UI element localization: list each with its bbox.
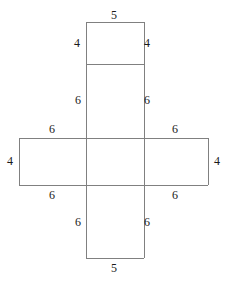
dimension-label-upper-middle-right-6: 6 bbox=[144, 94, 150, 106]
dimension-label-band-right-4: 4 bbox=[214, 155, 220, 167]
dimension-label-band-bottom-left-6: 6 bbox=[49, 189, 55, 201]
dimension-label-top-edge-5: 5 bbox=[111, 9, 117, 21]
dimension-label-top-square-right-4: 4 bbox=[144, 37, 150, 49]
dimension-label-band-bottom-right-6: 6 bbox=[172, 189, 178, 201]
dimension-label-top-square-left-4: 4 bbox=[74, 37, 80, 49]
net-edge-group bbox=[19, 22, 208, 258]
dimension-label-band-top-right-6: 6 bbox=[172, 123, 178, 135]
dimension-label-lower-middle-left-6: 6 bbox=[75, 216, 81, 228]
dimension-label-bottom-edge-5: 5 bbox=[111, 262, 117, 274]
net-diagram-canvas: 54466664466665 bbox=[0, 0, 228, 282]
net-outline-svg bbox=[0, 0, 228, 282]
dimension-label-band-top-left-6: 6 bbox=[49, 123, 55, 135]
dimension-label-band-left-4: 4 bbox=[7, 155, 13, 167]
dimension-label-lower-middle-right-6: 6 bbox=[144, 216, 150, 228]
dimension-label-upper-middle-left-6: 6 bbox=[75, 94, 81, 106]
